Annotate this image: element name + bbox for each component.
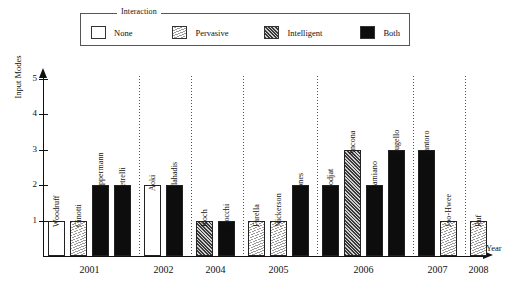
x-axis	[43, 256, 484, 257]
y-tick-mark	[39, 221, 48, 222]
bar[interactable]	[418, 150, 435, 257]
y-tick-label: 3	[25, 145, 37, 154]
bar[interactable]	[114, 185, 131, 256]
bar-label: Aoki	[148, 175, 157, 191]
bar-label: Petrelli	[118, 167, 127, 191]
y-tick-label: 2	[25, 180, 37, 189]
group-separator	[413, 76, 414, 256]
bar-label: Vlahadis	[170, 162, 179, 191]
group-separator	[139, 76, 140, 256]
group-separator	[465, 76, 466, 256]
plot-area: Input Modes Year 12345 WoodruffCinottiOp…	[0, 0, 516, 292]
bar-label: Farella	[252, 204, 261, 227]
y-tick-mark	[39, 79, 48, 80]
year-label: 2008	[469, 264, 489, 276]
year-label: 2007	[428, 264, 448, 276]
bar-chart: Interaction NonePervasiveIntelligentBoth…	[0, 0, 516, 292]
bar-label: Cinotti	[74, 204, 83, 227]
bar[interactable]	[366, 185, 383, 256]
bar-label: Joo-Hwee	[444, 193, 453, 226]
bar[interactable]	[144, 185, 161, 256]
year-label: 2005	[269, 264, 289, 276]
year-label: 2006	[354, 264, 374, 276]
bar-label: Hodjat	[326, 169, 335, 191]
bar-label: Rocchi	[222, 203, 231, 226]
x-axis-title: Year	[486, 243, 502, 253]
y-axis-title: Input Modes	[13, 45, 23, 109]
year-label: 2004	[206, 264, 226, 276]
bar[interactable]	[166, 185, 183, 256]
y-axis	[43, 76, 44, 257]
bar[interactable]	[292, 185, 309, 256]
y-axis-arrow-icon	[39, 68, 47, 78]
bar-label: Damiano	[370, 161, 379, 191]
year-label: 2001	[80, 264, 100, 276]
year-label: 2002	[154, 264, 174, 276]
y-tick-mark	[39, 114, 48, 115]
bar-label: Ancona	[348, 130, 357, 155]
bar-label: Nickerson	[274, 193, 283, 227]
bar-label: Santoro	[422, 130, 431, 156]
y-tick-mark	[39, 185, 48, 186]
bar-label: Koch	[200, 209, 209, 227]
bar[interactable]	[388, 150, 405, 257]
bar-label: Oppermann	[96, 152, 105, 191]
bar-label: Jones	[296, 173, 305, 191]
bar[interactable]	[344, 150, 361, 257]
bar-label: Woodruff	[52, 195, 61, 227]
bar[interactable]	[322, 185, 339, 256]
group-separator	[191, 76, 192, 256]
group-separator	[243, 76, 244, 256]
y-tick-label: 5	[25, 74, 37, 83]
bar[interactable]	[92, 185, 109, 256]
y-tick-label: 1	[25, 216, 37, 225]
y-tick-label: 4	[25, 109, 37, 118]
y-tick-mark	[39, 150, 48, 151]
group-separator	[317, 76, 318, 256]
bar-label: Augello	[392, 129, 401, 155]
bar-label: Ruf	[474, 214, 483, 226]
